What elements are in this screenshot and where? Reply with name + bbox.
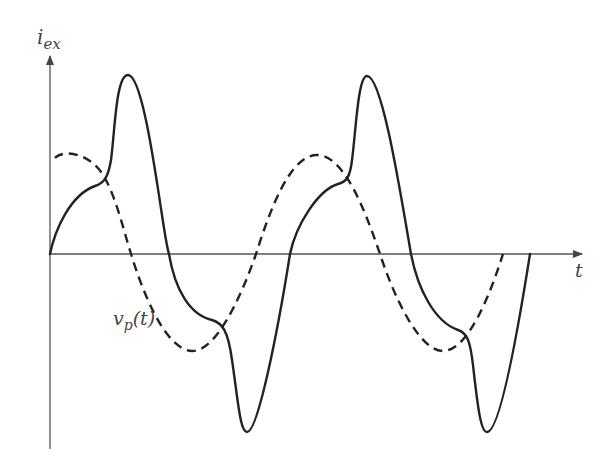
x-axis-label: t: [575, 259, 583, 281]
excitation-current-diagram: iex t vp(t): [0, 0, 614, 473]
voltage-curve-label: vp(t): [113, 307, 155, 333]
y-axis-label: iex: [37, 25, 61, 53]
